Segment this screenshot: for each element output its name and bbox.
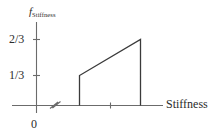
y-tick-label-one-third: 1/3 (9, 69, 24, 81)
y-axis-label-subscript: Stiffness (32, 11, 56, 18)
y-tick-label-two-thirds: 2/3 (9, 33, 24, 45)
origin-label: 0 (31, 118, 37, 130)
chart-figure: fStiffness 2/3 1/3 0 Stiffness (0, 0, 213, 138)
x-axis-label: Stiffness (166, 98, 208, 110)
pdf-trapezoid-outline (80, 40, 141, 106)
y-axis-label: fStiffness (29, 6, 56, 19)
